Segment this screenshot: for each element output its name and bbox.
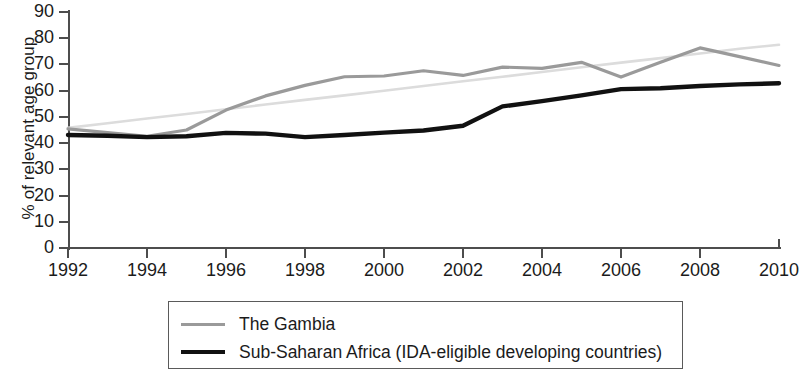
data-series-the-gambia bbox=[68, 48, 779, 136]
legend-item-sub-saharan-africa: Sub-Saharan Africa (IDA-eligible develop… bbox=[181, 338, 682, 366]
legend-label-the-gambia: The Gambia bbox=[239, 314, 335, 335]
gray-line-swatch bbox=[181, 323, 225, 326]
black-line-swatch bbox=[181, 350, 225, 354]
legend-label-sub-saharan-africa: Sub-Saharan Africa (IDA-eligible develop… bbox=[239, 342, 662, 363]
data-series-sub-saharan-africa-ida-eligible-developing-countries bbox=[68, 83, 779, 137]
legend-item-the-gambia: The Gambia bbox=[181, 310, 682, 338]
chart-legend: The Gambia Sub-Saharan Africa (IDA-eligi… bbox=[168, 301, 683, 369]
chart-figure: % of relevant age group 0102030405060708… bbox=[0, 0, 802, 369]
